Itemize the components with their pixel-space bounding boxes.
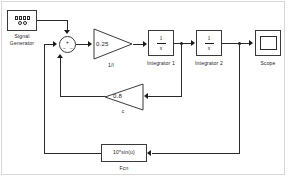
integrator-2-label: Integrator 2: [188, 60, 230, 66]
fcn-label: Fcn: [101, 165, 147, 171]
wire-fcn-to-sum-h: [44, 153, 101, 154]
integrator-1-denominator: s: [160, 45, 162, 52]
sum-sign-left: −: [63, 46, 66, 51]
gain-feedback-label: c: [113, 108, 133, 114]
integrator-2-block[interactable]: 1 s: [196, 30, 222, 56]
signal-generator-label-line1: Signal: [2, 33, 42, 39]
fraction-bar: [157, 43, 166, 44]
arrow-into-sum-bottom: [57, 54, 63, 58]
arrow-into-gain-feedback: [144, 93, 148, 99]
integrator-1-block[interactable]: 1 s: [148, 30, 174, 56]
wire-int2-branch-down: [239, 43, 240, 153]
wire-int2-branch-left: [152, 153, 240, 154]
wire-gainfb-to-sum-v: [60, 58, 61, 97]
sum-sign-bottom: −: [70, 46, 73, 51]
scope-block[interactable]: [255, 30, 281, 56]
wire-gainfb-to-sum-h: [60, 96, 105, 97]
sum-block[interactable]: + − −: [59, 36, 76, 53]
wire-int1-branch-left: [148, 96, 182, 97]
gain-feedback-value: 0.8: [113, 93, 137, 99]
fraction-bar: [205, 43, 214, 44]
gain-forward-label: 1/I: [96, 62, 126, 68]
arrow-into-gain-forward: [88, 41, 92, 47]
integrator-1-label: Integrator 1: [140, 60, 182, 66]
signal-generator-block[interactable]: [7, 10, 37, 31]
sum-sign-top: +: [66, 40, 69, 45]
arrow-into-sum-left: [53, 41, 57, 47]
gain-forward-value: 0.25: [96, 41, 120, 47]
arrow-into-sum-top: [64, 30, 70, 34]
wire-int2-to-scope: [222, 43, 251, 44]
arrow-into-integrator2: [191, 40, 195, 46]
wire-fcn-to-sum-v: [44, 44, 45, 154]
integrator-2-icon: 1 s: [197, 31, 221, 55]
scope-label: Scope: [248, 60, 288, 66]
integrator-2-numerator: 1: [208, 35, 211, 42]
fcn-expression: 10*sin(u): [101, 149, 147, 155]
arrow-into-fcn: [147, 150, 151, 156]
signal-generator-icon: [8, 11, 36, 30]
scope-screen-icon: [260, 36, 277, 50]
arrow-into-integrator1: [143, 41, 147, 47]
signal-generator-label-line2: Generator: [2, 40, 42, 46]
wire-int1-branch-down: [181, 43, 182, 96]
integrator-1-numerator: 1: [160, 35, 163, 42]
simulink-canvas: Signal Generator + − − 0.25 1/I 1 s Inte…: [0, 0, 288, 178]
arrow-into-scope: [249, 40, 253, 46]
integrator-2-denominator: s: [208, 45, 210, 52]
wire-siggen-right: [37, 20, 68, 21]
integrator-1-icon: 1 s: [149, 31, 173, 55]
